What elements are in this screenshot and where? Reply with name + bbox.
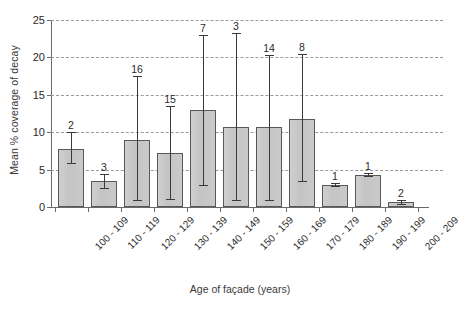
error-cap-upper <box>67 132 76 133</box>
sample-count-label: 8 <box>299 41 305 52</box>
error-cap-upper <box>331 183 340 184</box>
error-cap-lower <box>397 204 406 205</box>
error-cap-lower <box>265 200 274 201</box>
x-tick-label: 180 - 189 <box>357 215 394 252</box>
x-tick-mark <box>187 207 188 212</box>
y-tick-label: 0 <box>39 202 45 213</box>
error-cap-lower <box>364 176 373 177</box>
y-tick-mark <box>47 132 51 133</box>
error-cap-upper <box>133 76 142 77</box>
x-tick-mark <box>385 207 386 212</box>
x-tick-mark <box>88 207 89 212</box>
y-tick-label: 20 <box>33 52 45 63</box>
error-bar <box>203 35 204 185</box>
y-tick-label: 5 <box>39 164 45 175</box>
bar[interactable] <box>322 185 348 207</box>
x-tick-mark <box>220 207 221 212</box>
sample-count-label: 3 <box>101 162 107 173</box>
error-bar <box>269 55 270 199</box>
x-tick-label: 190 - 199 <box>390 215 427 252</box>
plot-area: 05101520252100 - 1093110 - 11916120 - 12… <box>51 20 443 207</box>
x-tick-mark <box>253 207 254 212</box>
y-tick-mark <box>47 95 51 96</box>
bar[interactable] <box>355 175 381 207</box>
y-tick-mark <box>47 170 51 171</box>
x-tick-mark <box>154 207 155 212</box>
sample-count-label: 2 <box>398 188 404 199</box>
error-bar <box>71 132 72 163</box>
error-cap-upper <box>397 200 406 201</box>
error-cap-upper <box>265 55 274 56</box>
error-cap-upper <box>199 35 208 36</box>
error-cap-lower <box>100 188 109 189</box>
x-axis-title: Age of façade (years) <box>150 283 330 295</box>
error-cap-lower <box>133 200 142 201</box>
error-bar <box>137 76 138 199</box>
sample-count-label: 1 <box>332 171 338 182</box>
error-cap-lower <box>331 186 340 187</box>
sample-count-label: 1 <box>365 161 371 172</box>
error-bar <box>236 33 237 199</box>
gridline <box>51 20 443 21</box>
sample-count-label: 2 <box>68 120 74 131</box>
error-cap-upper <box>364 173 373 174</box>
error-cap-lower <box>232 200 241 201</box>
error-bar <box>104 174 105 188</box>
x-tick-label: 160 - 169 <box>291 215 328 252</box>
x-axis-line <box>51 207 429 208</box>
x-tick-mark <box>121 207 122 212</box>
y-axis-title: Mean % coverage of decay <box>8 10 20 210</box>
x-tick-label: 200 - 209 <box>423 215 460 252</box>
x-tick-label: 130 - 139 <box>192 215 229 252</box>
y-tick-label: 10 <box>33 127 45 138</box>
sample-count-label: 16 <box>131 64 143 75</box>
x-tick-mark <box>319 207 320 212</box>
x-tick-label: 120 - 129 <box>159 215 196 252</box>
y-tick-label: 25 <box>33 15 45 26</box>
y-tick-label: 15 <box>33 89 45 100</box>
y-tick-mark <box>47 57 51 58</box>
sample-count-label: 15 <box>164 94 176 105</box>
error-cap-upper <box>232 33 241 34</box>
error-cap-lower <box>67 163 76 164</box>
x-tick-label: 140 - 149 <box>225 215 262 252</box>
x-tick-label: 170 - 179 <box>324 215 361 252</box>
x-tick-label: 110 - 119 <box>126 215 162 251</box>
error-cap-lower <box>298 181 307 182</box>
y-tick-mark <box>47 207 51 208</box>
sample-count-label: 14 <box>263 43 275 54</box>
error-cap-upper <box>298 54 307 55</box>
error-cap-lower <box>166 199 175 200</box>
x-tick-label: 150 - 159 <box>258 215 295 252</box>
error-cap-upper <box>166 106 175 107</box>
x-tick-mark <box>55 207 56 212</box>
x-tick-mark <box>286 207 287 212</box>
sample-count-label: 7 <box>200 22 206 33</box>
sample-count-label: 3 <box>233 21 239 32</box>
x-tick-label: 100 - 109 <box>93 215 130 252</box>
x-tick-mark <box>352 207 353 212</box>
gridline <box>51 57 443 58</box>
error-cap-lower <box>199 185 208 186</box>
error-cap-upper <box>100 174 109 175</box>
gridline <box>51 95 443 96</box>
error-bar <box>170 106 171 199</box>
x-tick-mark <box>418 207 419 212</box>
error-bar <box>302 54 303 181</box>
y-tick-mark <box>47 20 51 21</box>
